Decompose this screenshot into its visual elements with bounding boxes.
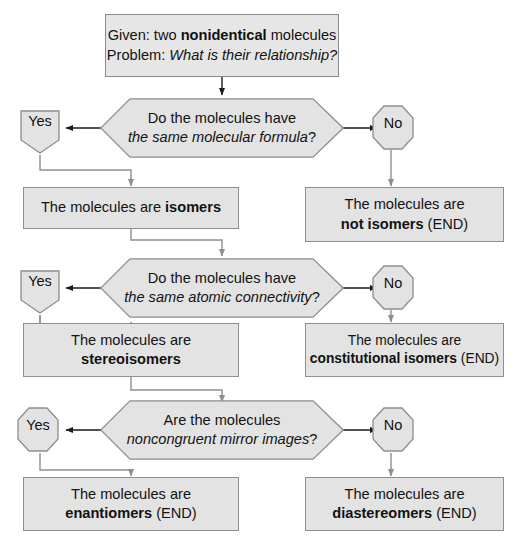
start-problem-box: Given: two nonidentical molecules Proble… <box>105 14 339 77</box>
start-problem-label: Problem: <box>107 47 165 63</box>
result-constitutional-suffix: (END) <box>457 351 499 366</box>
result-enantiomers-box: The molecules are enantiomers (END) <box>23 477 239 531</box>
result-not-isomers-suffix: (END) <box>424 216 469 232</box>
result-isomers-prefix: The molecules are <box>41 199 165 215</box>
start-problem-text: Given: two nonidentical molecules Proble… <box>107 26 337 65</box>
start-problem-italic: What is their relationship? <box>165 47 337 63</box>
branch-yes-2[interactable]: Yes <box>17 267 63 315</box>
result-constitutional-isomers-box: The molecules are constitutional isomers… <box>305 323 504 377</box>
result-diastereomers-suffix: (END) <box>432 505 477 521</box>
result-not-isomers-text: The molecules are not isomers (END) <box>341 195 468 234</box>
branch-no-3[interactable]: No <box>371 406 415 454</box>
branch-yes-3[interactable]: Yes <box>16 406 60 454</box>
result-constitutional-prefix: The molecules are <box>310 332 499 350</box>
result-stereoisomers-prefix: The molecules are <box>71 331 191 350</box>
result-stereoisomers-text: The molecules are stereoisomers <box>71 331 191 370</box>
decision-1-line2: the same molecular formula <box>128 129 308 145</box>
decision-molecular-formula-text: Do the molecules have the same molecular… <box>100 98 344 158</box>
start-given-rest-a: two <box>150 27 181 43</box>
result-enantiomers-bold: enantiomers <box>65 505 152 521</box>
result-isomers-bold: isomers <box>165 199 221 215</box>
result-diastereomers-bold: diastereomers <box>332 505 432 521</box>
result-not-isomers-box: The molecules are not isomers (END) <box>305 187 504 242</box>
start-given-bold: nonidentical <box>181 27 267 43</box>
result-constitutional-bold: constitutional isomers <box>310 351 457 366</box>
result-not-isomers-prefix: The molecules are <box>341 195 468 214</box>
branch-no-3-label: No <box>371 416 415 435</box>
start-given-rest-b: molecules <box>267 27 337 43</box>
result-enantiomers-text: The molecules are enantiomers (END) <box>65 485 196 524</box>
decision-mirror-images[interactable]: Are the molecules noncongruent mirror im… <box>100 400 344 460</box>
flowchart-canvas: Given: two nonidentical molecules Proble… <box>0 0 524 536</box>
decision-2-line1: Do the molecules have <box>148 269 296 288</box>
decision-2-line2: the same atomic connectivity <box>124 289 311 305</box>
result-stereoisomers-box: The molecules are stereoisomers <box>23 323 239 377</box>
decision-atomic-connectivity-text: Do the molecules have the same atomic co… <box>100 258 344 318</box>
result-isomers-box: The molecules are isomers <box>23 187 239 229</box>
decision-atomic-connectivity[interactable]: Do the molecules have the same atomic co… <box>100 258 344 318</box>
result-diastereomers-box: The molecules are diastereomers (END) <box>305 477 504 531</box>
result-enantiomers-prefix: The molecules are <box>65 485 196 504</box>
result-isomers-text: The molecules are isomers <box>41 198 221 217</box>
result-diastereomers-prefix: The molecules are <box>332 485 476 504</box>
decision-3-line1: Are the molecules <box>164 411 281 430</box>
branch-yes-2-label: Yes <box>17 272 63 291</box>
result-diastereomers-text: The molecules are diastereomers (END) <box>332 485 476 524</box>
branch-no-2-label: No <box>371 274 415 293</box>
decision-3-qmark: ? <box>309 431 317 447</box>
decision-3-line2: noncongruent mirror images <box>127 431 310 447</box>
branch-yes-1[interactable]: Yes <box>17 107 63 155</box>
decision-1-line1: Do the molecules have <box>148 109 296 128</box>
branch-no-2[interactable]: No <box>371 264 415 312</box>
result-stereoisomers-bold: stereoisomers <box>81 351 181 367</box>
result-enantiomers-suffix: (END) <box>152 505 197 521</box>
branch-yes-1-label: Yes <box>17 112 63 131</box>
decision-2-qmark: ? <box>312 289 320 305</box>
decision-mirror-images-text: Are the molecules noncongruent mirror im… <box>100 400 344 460</box>
result-constitutional-isomers-text: The molecules are constitutional isomers… <box>310 332 499 368</box>
decision-1-qmark: ? <box>308 129 316 145</box>
start-given-label: Given: <box>108 27 150 43</box>
result-not-isomers-bold: not isomers <box>341 216 424 232</box>
branch-no-1[interactable]: No <box>371 104 415 152</box>
decision-molecular-formula[interactable]: Do the molecules have the same molecular… <box>100 98 344 158</box>
branch-yes-3-label: Yes <box>16 416 60 435</box>
branch-no-1-label: No <box>371 114 415 133</box>
